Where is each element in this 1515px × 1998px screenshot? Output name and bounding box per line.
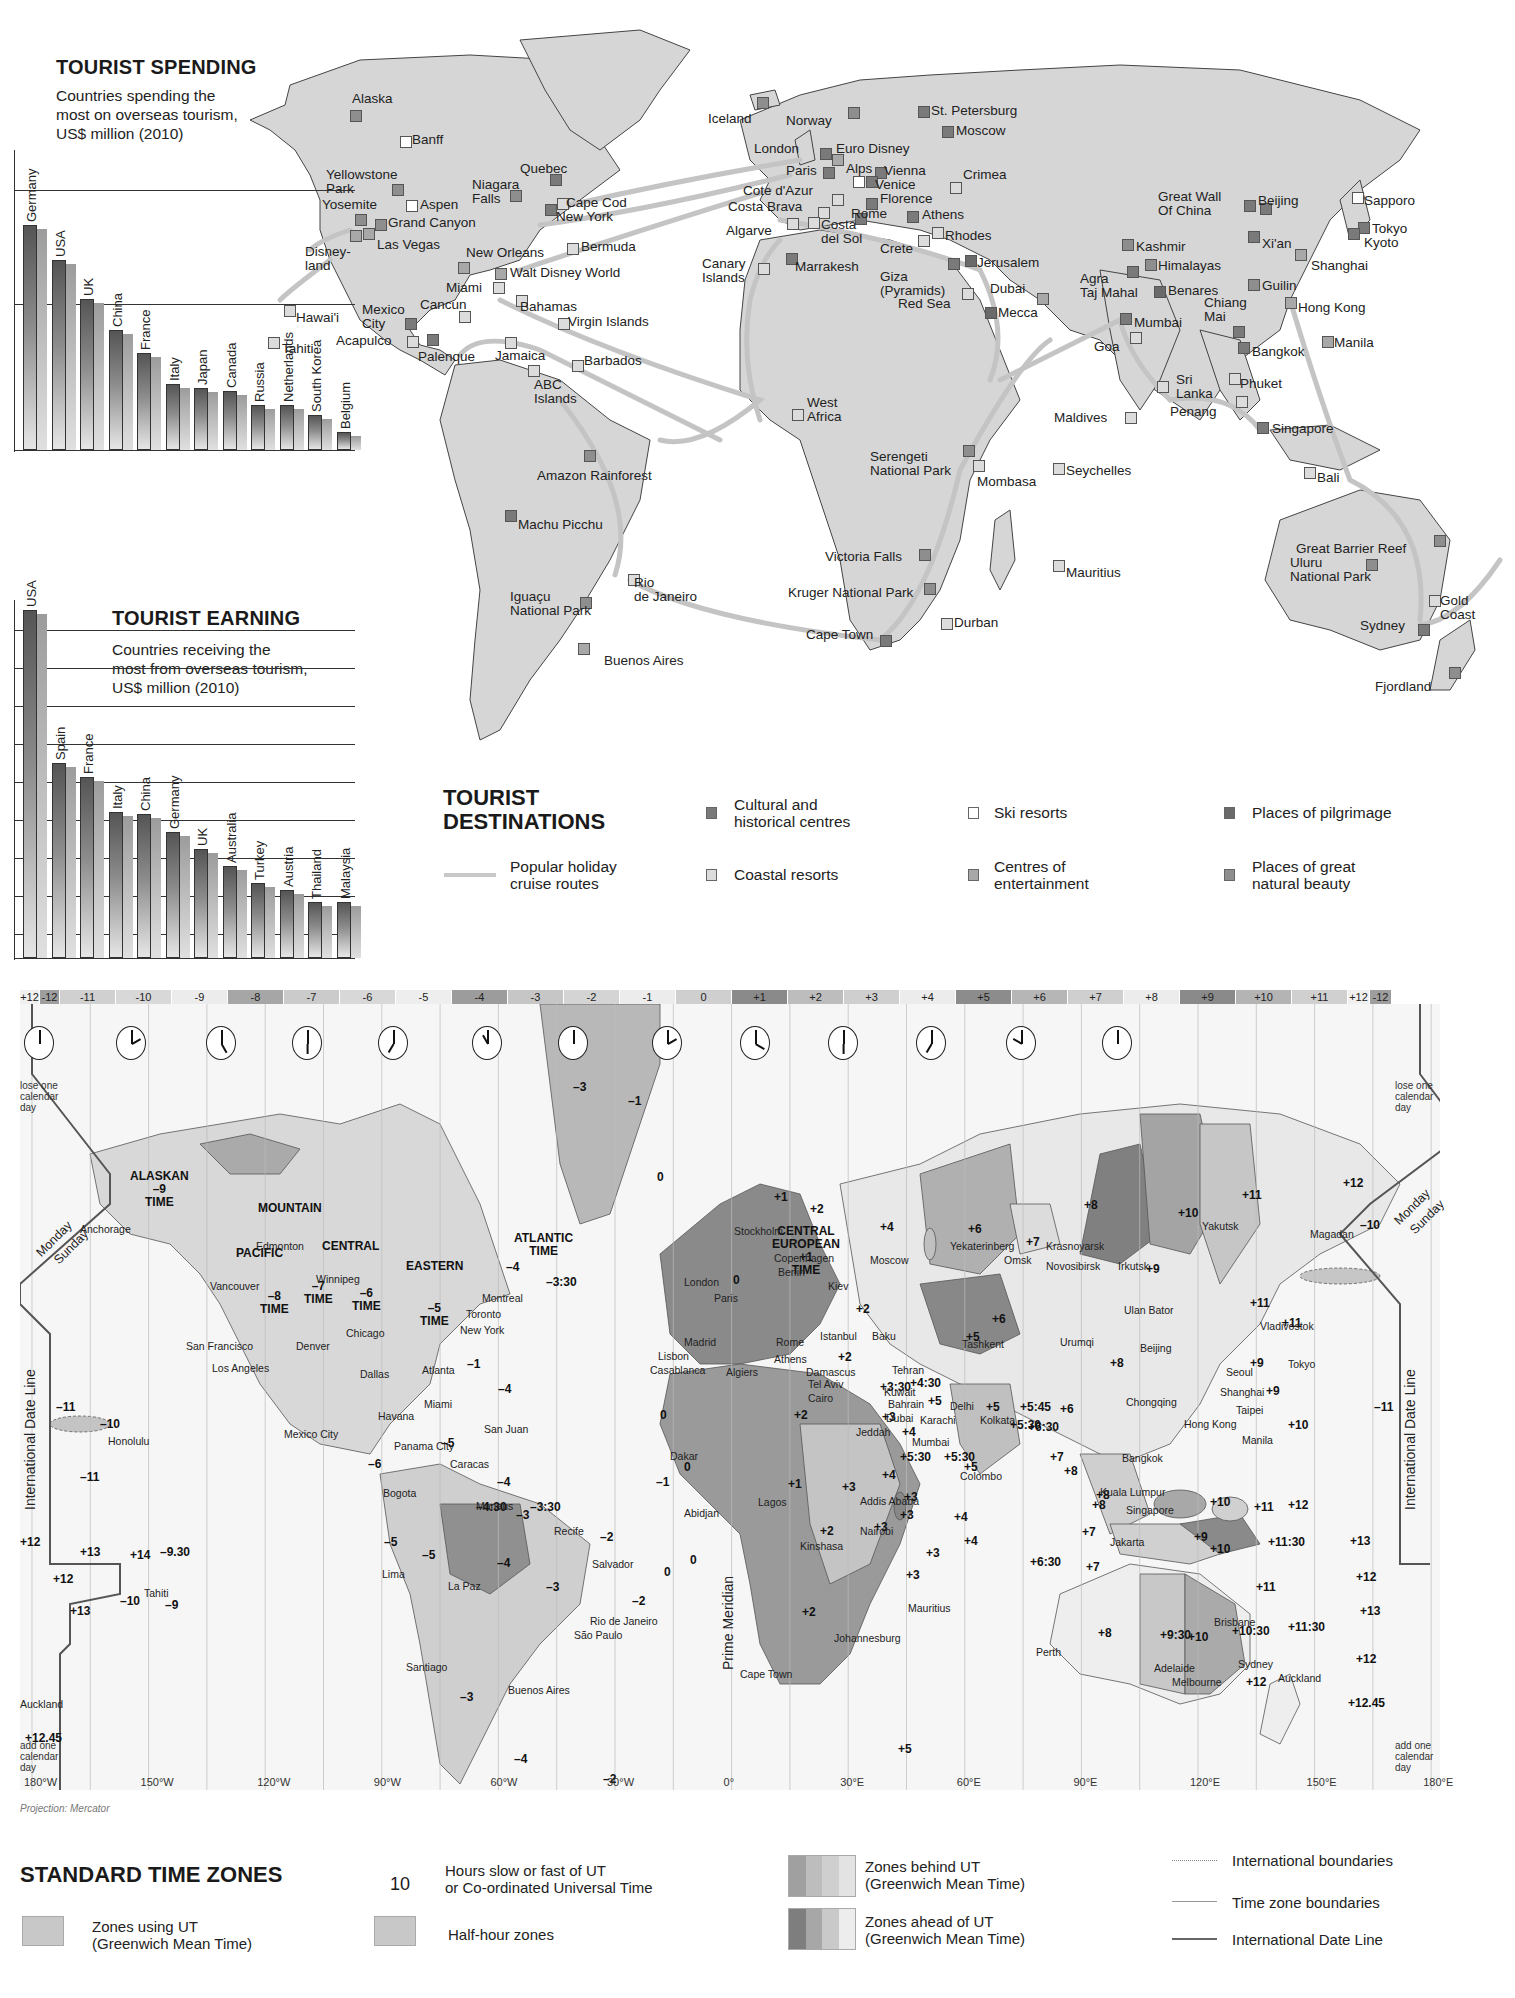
offset-label: –1 (467, 1357, 480, 1371)
offset-label: +10 (1188, 1630, 1208, 1644)
destination-label: Alaska (352, 92, 393, 106)
legend-zones-ahead: Zones ahead of UT (Greenwich Mean Time) (865, 1913, 1025, 1947)
bar-label: Canada (224, 342, 239, 388)
tz-band-cell: -2 (564, 990, 620, 1004)
bar-label: UK (81, 278, 96, 296)
destination-label: Great Barrier Reef (1296, 542, 1406, 556)
lose-day-note-left: lose onecalendarday (20, 1080, 58, 1113)
legend-zones-using-ut: Zones using UT (Greenwich Mean Time) (92, 1918, 252, 1952)
offset-label: –2 (600, 1530, 613, 1544)
city-label: Vancouver (210, 1280, 259, 1292)
destination-label: Vienna (884, 164, 926, 178)
city-label: Baku (872, 1330, 896, 1342)
marker-nature (1434, 535, 1446, 547)
destination-label: Cape Town (806, 628, 873, 642)
marker-entertain (1322, 336, 1334, 348)
offset-label: –11 (80, 1470, 99, 1484)
tz-band-cell: -9 (172, 990, 228, 1004)
city-label: São Paulo (574, 1629, 622, 1641)
destination-label: Fjordland (1375, 680, 1431, 694)
bar-spain (52, 763, 66, 958)
city-label: Winnipeg (316, 1273, 360, 1285)
offset-label: –4 (498, 1382, 511, 1396)
marker-nature (757, 97, 769, 109)
city-label: Moscow (870, 1254, 909, 1266)
bar-shadow (322, 419, 332, 450)
destination-label: Xi'an (1262, 237, 1292, 251)
clock-icon (378, 1026, 408, 1060)
offset-label: +6 (968, 1222, 982, 1236)
earning-bar-chart: USASpainFranceItalyChinaGermanyUKAustral… (14, 600, 364, 960)
destination-label: Virgin Islands (568, 315, 649, 329)
offset-label: +10 (1210, 1542, 1230, 1556)
city-label: Dubai (886, 1412, 913, 1424)
marker-coastal (832, 194, 844, 206)
city-label: Miami (424, 1398, 452, 1410)
destination-label: Kruger National Park (788, 586, 913, 600)
destination-label: Moscow (956, 124, 1006, 138)
chart-baseline (15, 450, 355, 451)
marker-coastal (459, 311, 471, 323)
offset-label: +7 (1082, 1525, 1096, 1539)
city-label: Shanghai (1220, 1386, 1264, 1398)
city-label: Athens (774, 1353, 807, 1365)
destination-label: Shanghai (1311, 259, 1368, 273)
bar-label: Italy (167, 357, 182, 381)
city-label: Tahiti (144, 1587, 169, 1599)
intl-boundary-line-swatch (1172, 1860, 1217, 1861)
city-label: Chicago (346, 1327, 385, 1339)
city-label: Urumqi (1060, 1336, 1094, 1348)
bar-shadow (322, 906, 332, 958)
offset-label: +7 (1026, 1235, 1040, 1249)
bar-netherlands (280, 405, 294, 450)
city-label: Magadan (1310, 1228, 1354, 1240)
destination-label: Buenos Aires (604, 654, 684, 668)
city-label: Lisbon (658, 1350, 689, 1362)
clock-icon (916, 1026, 946, 1060)
tz-band-cell: -3 (508, 990, 564, 1004)
destination-label: WestAfrica (807, 396, 842, 424)
longitude-label: 120°W (257, 1776, 290, 1788)
tz-band-cell: -8 (228, 990, 284, 1004)
entertainment-swatch (968, 869, 979, 881)
destination-label: Walt Disney World (510, 266, 620, 280)
offset-label: +2 (820, 1524, 834, 1538)
offset-label: +13 (1350, 1534, 1370, 1548)
bar-shadow (123, 334, 133, 450)
bar-china (137, 814, 151, 958)
marker-nature (584, 450, 596, 462)
zones-behind-swatch (788, 1855, 856, 1897)
offset-label: +8 (1098, 1626, 1112, 1640)
legend-hours-text: Hours slow or fast of UT or Co-ordinated… (445, 1862, 653, 1896)
marker-cultural (907, 211, 919, 223)
offset-label: +12.45 (25, 1731, 62, 1745)
destination-label: NiagaraFalls (472, 178, 519, 206)
city-label: Caracas (450, 1458, 489, 1470)
offset-label: +1 (774, 1190, 788, 1204)
bar-label: France (81, 734, 96, 774)
bar-label: Australia (224, 812, 239, 863)
destination-label: Cancun (420, 298, 467, 312)
city-label: Buenos Aires (508, 1684, 570, 1696)
marker-cultural (1348, 228, 1360, 240)
city-label: Edmonton (256, 1240, 304, 1252)
marker-cultural (1418, 624, 1430, 636)
offset-label: +7 (1086, 1560, 1100, 1574)
destination-label: Red Sea (898, 297, 951, 311)
destination-label: Guilin (1262, 279, 1297, 293)
offset-label: +2 (802, 1605, 816, 1619)
offset-label: +12 (1246, 1675, 1266, 1689)
destination-label: London (754, 142, 799, 156)
offset-label: –10 (120, 1594, 140, 1608)
destination-label: AgraTaj Mahal (1080, 272, 1138, 300)
city-label: Perth (1036, 1646, 1061, 1658)
bar-usa (23, 610, 37, 958)
city-label: Santiago (406, 1661, 447, 1673)
half-hour-swatch (374, 1916, 416, 1946)
tz-band-cell: +10 (1236, 990, 1292, 1004)
bar-shadow (94, 781, 104, 958)
offset-label: +4 (964, 1534, 978, 1548)
city-label: Jeddah (856, 1426, 890, 1438)
projection-note: Projection: Mercator (20, 1803, 109, 1814)
destination-label: Cape Cod (566, 196, 627, 210)
